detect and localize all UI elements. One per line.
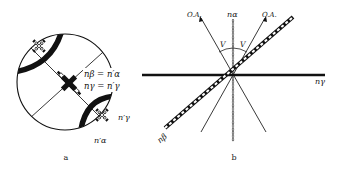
panel-a-caption: a <box>64 153 69 162</box>
label-nbeta-equals-nalpha-prime: nβ = n′α <box>84 69 120 79</box>
label-ngamma-equals-ngamma-prime: nγ = n′γ <box>84 81 120 91</box>
figure-canvas: nβ = n′α nγ = n′γ n′γ n′α a O.A. O.A. nα… <box>0 0 342 170</box>
label-v-left: V <box>220 40 227 49</box>
label-n-gamma: nγ <box>315 77 325 86</box>
panel-b: O.A. O.A. nα V V nγ nβ b <box>142 10 325 162</box>
label-n-alpha: nα <box>227 10 238 19</box>
center-extinction-cross <box>51 65 86 100</box>
label-n-beta: nβ <box>156 132 170 145</box>
label-ngamma-prime: n′γ <box>118 113 130 122</box>
label-nalpha-prime: n′α <box>94 136 107 145</box>
label-optic-axis-left: O.A. <box>187 11 202 19</box>
panel-a: nβ = n′α nγ = n′γ n′γ n′α a <box>14 30 130 162</box>
label-v-right: V <box>240 40 247 49</box>
panel-b-caption: b <box>231 153 236 162</box>
label-optic-axis-right: O.A. <box>262 11 277 19</box>
